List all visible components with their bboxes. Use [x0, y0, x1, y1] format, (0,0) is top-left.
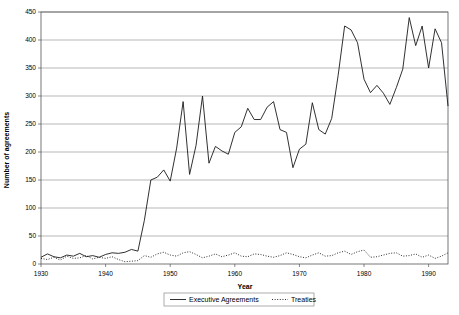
y-tick-label: 300: [25, 92, 36, 99]
series-line-executive-agreements: [41, 18, 448, 258]
x-tick-label: 1930: [34, 270, 49, 277]
y-axis-title: Number of agreements: [3, 112, 11, 188]
y-axis-tick-labels: 050100150200250300350400450: [25, 8, 36, 267]
data-series-group: [41, 18, 448, 262]
y-axis-tickmarks: [38, 12, 41, 264]
x-axis-tickmarks: [41, 264, 429, 267]
y-tick-label: 100: [25, 204, 36, 211]
x-axis-tick-labels: 1930194019501960197019801990: [34, 270, 436, 277]
y-tick-label: 400: [25, 36, 36, 43]
y-tick-label: 200: [25, 148, 36, 155]
x-tick-label: 1940: [98, 270, 113, 277]
y-tick-label: 350: [25, 64, 36, 71]
x-tick-label: 1970: [292, 270, 307, 277]
y-tick-label: 50: [29, 232, 37, 239]
y-tick-label: 0: [32, 260, 36, 267]
legend-label: Executive Agreements: [189, 296, 259, 304]
x-tick-label: 1960: [228, 270, 243, 277]
x-tick-label: 1990: [421, 270, 436, 277]
y-tick-label: 450: [25, 8, 36, 15]
plot-frame: [41, 12, 448, 264]
y-tick-label: 250: [25, 120, 36, 127]
gridlines: [41, 12, 448, 236]
y-tick-label: 150: [25, 176, 36, 183]
x-tick-label: 1950: [163, 270, 178, 277]
x-tick-label: 1980: [357, 270, 372, 277]
chart-container: 050100150200250300350400450 193019401950…: [0, 0, 459, 315]
legend-label: Treaties: [291, 296, 317, 303]
line-chart: 050100150200250300350400450 193019401950…: [0, 0, 459, 315]
x-axis-title: Year: [238, 283, 253, 290]
chart-legend: Executive AgreementsTreaties: [164, 293, 317, 306]
